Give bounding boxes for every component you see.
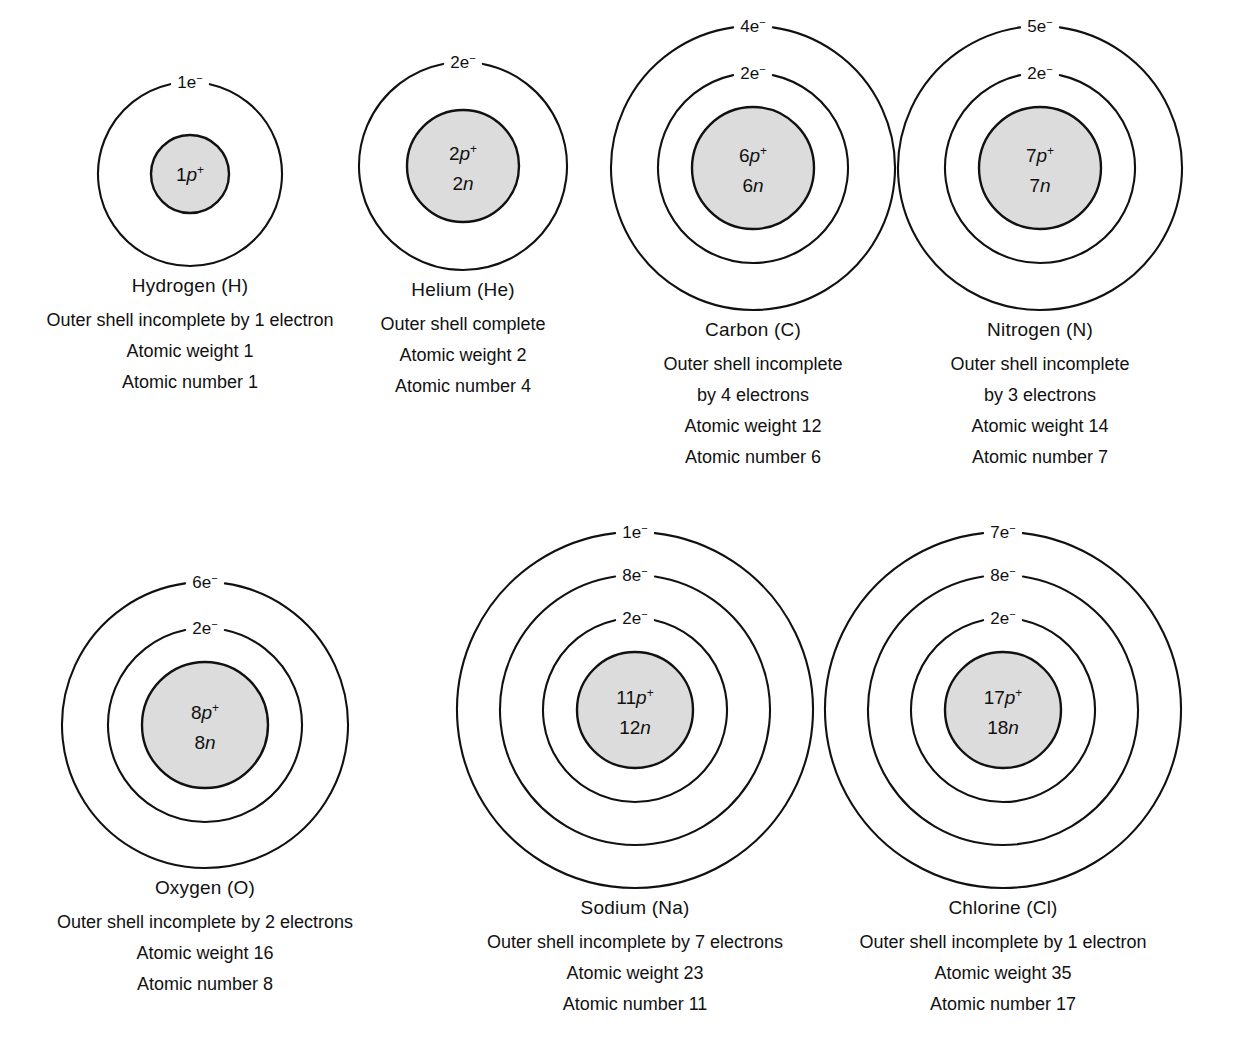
shell-electron-label: 2e− bbox=[1027, 63, 1052, 83]
nucleus-neutron-label: 12n bbox=[619, 717, 651, 738]
atom-diagram-oxygen: 6e−2e−8p+8n bbox=[58, 578, 352, 872]
element-name: Carbon (C) bbox=[663, 320, 842, 339]
caption-line: Atomic number 17 bbox=[859, 995, 1146, 1013]
atom-caption-chlorine: Chlorine (Cl) Outer shell incomplete by … bbox=[859, 898, 1146, 1026]
shell-diagram: 7e−8e−2e−17p+18n bbox=[821, 528, 1185, 892]
atom-caption-carbon: Carbon (C) Outer shell incompleteby 4 el… bbox=[663, 320, 842, 479]
nucleus-neutron-label: 6n bbox=[742, 175, 763, 196]
atom-oxygen: 6e−2e−8p+8n Oxygen (O) Outer shell incom… bbox=[40, 578, 370, 1006]
shell-diagram: 1e−8e−2e−11p+12n bbox=[453, 528, 817, 892]
caption-line: Outer shell complete bbox=[380, 315, 545, 333]
caption-lines: Outer shell incomplete by 1 electronAtom… bbox=[46, 311, 333, 391]
shell-electron-label: 2e− bbox=[450, 52, 475, 72]
nucleus bbox=[407, 110, 519, 222]
shell-electron-label: 2e− bbox=[192, 618, 217, 638]
nucleus-neutron-label: 2n bbox=[452, 173, 473, 194]
element-name: Helium (He) bbox=[380, 280, 545, 299]
caption-lines: Outer shell incompleteby 4 electronsAtom… bbox=[663, 355, 842, 466]
caption-line: Atomic number 1 bbox=[46, 373, 333, 391]
caption-line: Outer shell incomplete by 2 electrons bbox=[57, 913, 353, 931]
caption-lines: Outer shell incomplete by 2 electronsAto… bbox=[57, 913, 353, 993]
atom-hydrogen: 1e−1p+ Hydrogen (H) Outer shell incomple… bbox=[45, 78, 335, 404]
shell-electron-label: 2e− bbox=[622, 608, 647, 628]
caption-line: Outer shell incomplete bbox=[663, 355, 842, 373]
shell-electron-label: 1e− bbox=[177, 72, 202, 92]
element-name: Nitrogen (N) bbox=[950, 320, 1129, 339]
atom-diagram-nitrogen: 5e−2e−7p+7n bbox=[894, 22, 1186, 314]
shell-diagram: 2e−2p+2n bbox=[355, 58, 571, 274]
shell-electron-label: 6e− bbox=[192, 572, 217, 592]
atom-diagram-carbon: 4e−2e−6p+6n bbox=[607, 22, 899, 314]
caption-lines: Outer shell incomplete by 7 electronsAto… bbox=[487, 933, 783, 1013]
caption-line: Outer shell incomplete bbox=[950, 355, 1129, 373]
shell-electron-label: 5e− bbox=[1027, 16, 1052, 36]
caption-line: Atomic weight 35 bbox=[859, 964, 1146, 982]
shell-electron-label: 8e− bbox=[622, 565, 647, 585]
atom-caption-sodium: Sodium (Na) Outer shell incomplete by 7 … bbox=[487, 898, 783, 1026]
caption-line: Atomic weight 14 bbox=[950, 417, 1129, 435]
shell-electron-label: 8e− bbox=[990, 565, 1015, 585]
atom-caption-nitrogen: Nitrogen (N) Outer shell incompleteby 3 … bbox=[950, 320, 1129, 479]
caption-lines: Outer shell incompleteby 3 electronsAtom… bbox=[950, 355, 1129, 466]
shell-diagram: 6e−2e−8p+8n bbox=[58, 578, 352, 872]
shell-diagram: 1e−1p+ bbox=[94, 78, 286, 270]
element-name: Chlorine (Cl) bbox=[859, 898, 1146, 917]
shell-electron-label: 4e− bbox=[740, 16, 765, 36]
atom-nitrogen: 5e−2e−7p+7n Nitrogen (N) Outer shell inc… bbox=[895, 22, 1185, 479]
atom-diagram-hydrogen: 1e−1p+ bbox=[94, 78, 286, 270]
caption-line: Atomic weight 12 bbox=[663, 417, 842, 435]
caption-line: Outer shell incomplete by 1 electron bbox=[46, 311, 333, 329]
caption-line: Atomic number 6 bbox=[663, 448, 842, 466]
caption-lines: Outer shell incomplete by 1 electronAtom… bbox=[859, 933, 1146, 1013]
element-name: Sodium (Na) bbox=[487, 898, 783, 917]
shell-diagram: 4e−2e−6p+6n bbox=[607, 22, 899, 314]
shell-electron-label: 1e− bbox=[622, 522, 647, 542]
atom-diagram-chlorine: 7e−8e−2e−17p+18n bbox=[821, 528, 1185, 892]
caption-line: by 3 electrons bbox=[950, 386, 1129, 404]
shell-diagram: 5e−2e−7p+7n bbox=[894, 22, 1186, 314]
nucleus-neutron-label: 7n bbox=[1029, 175, 1050, 196]
caption-line: Atomic weight 16 bbox=[57, 944, 353, 962]
caption-line: Atomic number 7 bbox=[950, 448, 1129, 466]
atom-caption-helium: Helium (He) Outer shell completeAtomic w… bbox=[380, 280, 545, 408]
caption-line: by 4 electrons bbox=[663, 386, 842, 404]
atom-diagram-helium: 2e−2p+2n bbox=[355, 58, 571, 274]
element-name: Oxygen (O) bbox=[57, 878, 353, 897]
shell-electron-label: 2e− bbox=[990, 608, 1015, 628]
shell-electron-label: 2e− bbox=[740, 63, 765, 83]
nucleus bbox=[577, 652, 693, 768]
shell-electron-label: 7e− bbox=[990, 522, 1015, 542]
caption-lines: Outer shell completeAtomic weight 2Atomi… bbox=[380, 315, 545, 395]
atom-diagram-sodium: 1e−8e−2e−11p+12n bbox=[453, 528, 817, 892]
caption-line: Atomic weight 1 bbox=[46, 342, 333, 360]
caption-line: Atomic number 8 bbox=[57, 975, 353, 993]
atom-helium: 2e−2p+2n Helium (He) Outer shell complet… bbox=[318, 58, 608, 408]
nucleus bbox=[945, 652, 1061, 768]
atom-sodium: 1e−8e−2e−11p+12n Sodium (Na) Outer shell… bbox=[470, 528, 800, 1026]
caption-line: Atomic number 4 bbox=[380, 377, 545, 395]
nucleus bbox=[979, 107, 1101, 229]
element-name: Hydrogen (H) bbox=[46, 276, 333, 295]
caption-line: Atomic number 11 bbox=[487, 995, 783, 1013]
atom-carbon: 4e−2e−6p+6n Carbon (C) Outer shell incom… bbox=[608, 22, 898, 479]
caption-line: Outer shell incomplete by 1 electron bbox=[859, 933, 1146, 951]
nucleus-neutron-label: 8n bbox=[194, 732, 215, 753]
caption-line: Atomic weight 23 bbox=[487, 964, 783, 982]
nucleus bbox=[692, 107, 814, 229]
caption-line: Outer shell incomplete by 7 electrons bbox=[487, 933, 783, 951]
caption-line: Atomic weight 2 bbox=[380, 346, 545, 364]
atom-caption-hydrogen: Hydrogen (H) Outer shell incomplete by 1… bbox=[46, 276, 333, 404]
atom-caption-oxygen: Oxygen (O) Outer shell incomplete by 2 e… bbox=[57, 878, 353, 1006]
nucleus bbox=[142, 662, 268, 788]
nucleus-neutron-label: 18n bbox=[987, 717, 1019, 738]
atom-chlorine: 7e−8e−2e−17p+18n Chlorine (Cl) Outer she… bbox=[838, 528, 1168, 1026]
